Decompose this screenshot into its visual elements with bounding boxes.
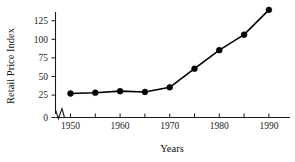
data-point-1985 (241, 32, 247, 38)
data-point-1950 (68, 91, 74, 97)
y-tick-label-25: 25 (39, 90, 49, 100)
data-point-1960 (117, 88, 123, 94)
x-tick-label-1960: 1960 (111, 121, 130, 131)
data-series-line (71, 10, 269, 94)
data-point-1980 (216, 47, 222, 53)
data-point-1965 (142, 89, 148, 95)
x-tick-label-1970: 1970 (160, 121, 179, 131)
y-tick-label-100: 100 (34, 35, 49, 45)
x-axis-title: Years (160, 143, 183, 154)
y-tick-label-0: 0 (43, 113, 48, 123)
data-point-markers (68, 7, 272, 96)
y-tick-label-50: 50 (39, 72, 49, 82)
data-point-1955 (92, 90, 98, 96)
y-tick-label-125: 125 (34, 16, 49, 26)
line-chart-canvas: 0 25 50 75 100 125 1950 1960 1970 1980 1… (0, 0, 295, 162)
data-point-1970 (167, 84, 173, 90)
chart-figure: 0 25 50 75 100 125 1950 1960 1970 1980 1… (0, 0, 295, 162)
x-tick-label-1980: 1980 (210, 121, 229, 131)
x-tick-label-1990: 1990 (259, 121, 278, 131)
x-tick-label-1950: 1950 (61, 121, 80, 131)
y-axis-ticks (52, 21, 56, 118)
data-point-1990 (266, 7, 272, 13)
data-point-1975 (192, 66, 198, 72)
x-axis-ticks (71, 114, 269, 118)
y-tick-label-75: 75 (39, 53, 49, 63)
y-axis-title: Retail Price Index (5, 27, 16, 104)
